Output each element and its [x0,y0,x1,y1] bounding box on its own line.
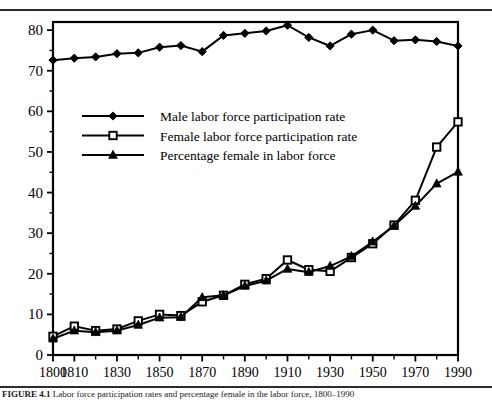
data-point-marker [177,41,185,49]
data-point-marker [411,36,419,44]
y-tick-label: 40 [28,185,43,201]
data-point-marker [109,132,116,139]
y-tick-label: 30 [28,225,43,241]
figure-caption: FIGURE 4.1 Labor force participation rat… [2,389,490,399]
data-point-marker [433,37,441,45]
legend-item-3: Percentage female in labor force [82,148,335,163]
legend-item-2: Female labor force participation rate [82,129,357,144]
series-3 [49,167,463,342]
y-tick-label: 70 [28,63,43,79]
x-tick-label: 1850 [146,365,174,380]
bottom-horizontal-rule [0,386,492,388]
data-point-marker [49,56,57,64]
series-line [53,172,458,339]
y-tick-label: 50 [28,144,43,160]
x-tick-label: 1890 [231,365,259,380]
data-point-marker [113,50,121,58]
x-tick-label: 1810 [60,365,88,380]
plot-border [53,22,458,355]
y-axis: 01020304050607080 [28,22,53,363]
y-tick-label: 80 [28,22,43,38]
plot-frame [53,22,458,355]
data-point-marker [326,42,334,50]
legend-label: Female labor force participation rate [160,129,357,144]
data-point-marker [454,118,461,125]
data-point-marker [454,42,462,50]
data-point-marker [283,264,292,272]
legend-label: Male labor force participation rate [160,109,345,124]
y-tick-label: 10 [28,306,43,322]
x-tick-label: 1930 [316,365,344,380]
legend-label: Percentage female in labor force [160,148,335,163]
figure-root: 0102030405060708018001810183018501870189… [0,0,492,400]
data-point-marker [369,26,377,34]
data-point-marker [70,54,78,62]
chart-legend: Male labor force participation rateFemal… [82,109,357,163]
x-tick-label: 1830 [103,365,131,380]
x-tick-label: 1910 [273,365,301,380]
figure-caption-text: Labor force participation rates and perc… [53,389,354,399]
data-point-marker [284,256,291,263]
y-tick-label: 0 [36,347,44,363]
data-point-marker [305,33,313,41]
data-point-marker [92,53,100,61]
data-point-marker [241,29,249,37]
legend-item-1: Male labor force participation rate [82,109,345,124]
x-tick-label: 1970 [401,365,429,380]
data-point-marker [109,112,117,120]
y-tick-label: 60 [28,103,43,119]
figure-caption-number: FIGURE 4.1 [2,389,51,399]
series-1 [49,21,462,64]
y-tick-label: 20 [28,266,43,282]
x-tick-label: 1870 [188,365,216,380]
data-point-marker [155,43,163,51]
data-point-marker [433,143,440,150]
x-tick-label: 1950 [359,365,387,380]
line-chart: 0102030405060708018001810183018501870189… [0,0,492,400]
x-tick-label: 1990 [444,365,472,380]
data-point-marker [347,30,355,38]
data-point-marker [134,49,142,57]
data-point-marker [390,37,398,45]
data-point-marker [262,27,270,35]
data-point-marker [454,167,463,175]
x-axis: 1800181018301850187018901910193019501970… [39,355,472,380]
